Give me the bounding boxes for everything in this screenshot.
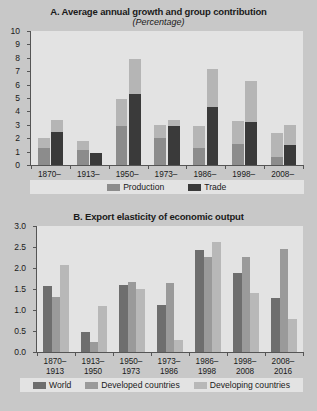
panel-a-x-label-line1: 1870– [30,170,69,180]
panel-b-x-tick [113,352,114,356]
panel-a-title: A. Average annual growth and group contr… [6,2,311,17]
panel-a-bar-segment-upper [77,141,89,150]
panel-b-bar-world [271,298,280,352]
panel-a-x-label-line1: 1950– [108,170,147,180]
panel-b-x-tick [227,352,228,356]
panel-b-y-tick-label: 1.0 [14,305,26,315]
panel-a-y-tick [27,125,31,126]
panel-a-x-tick [186,165,187,169]
panel-a-bar-segment-lower [271,157,283,165]
panel-a-bar-trade [207,69,219,165]
panel-b-bar-world [233,273,242,352]
panel-b-legend-item: Developed countries [85,380,179,390]
panel-b-y-tick-label: 0.0 [14,347,26,357]
panel-b-bar-world [81,332,90,352]
panel-b-x-label-line2: 1998 [188,367,226,377]
panel-b-bar-developing-countries [136,289,145,352]
panel-a-bar-segment-lower [90,153,102,165]
panel-b-bar-group [227,226,265,352]
panel-b-bar-developing-countries [288,319,297,352]
panel-b-bar-developed-countries [166,283,175,352]
panel-b-legend-swatch [33,382,46,389]
panel-a-y-tick [27,111,31,112]
panel-a-y-tick-label: 0 [15,160,20,170]
panel-b-bar-developed-countries [242,257,251,352]
panel-a-legend-item: Trade [188,182,226,192]
panel-a-y-tick [27,85,31,86]
panel-a-bar-production [154,125,166,165]
panel-a-bar-segment-upper [193,126,205,147]
panel-b-x-label-line2: 1973 [112,367,150,377]
panel-b-bar-world [119,285,128,352]
panel-b-bar-group [265,226,303,352]
panel-b-x-label-line1: 2008– [264,357,302,367]
panel-b-y-tick [33,331,37,332]
panel-a-legend: ProductionTrade [30,180,304,194]
panel-b-legend-swatch [194,382,207,389]
panel-a-bar-segment-upper [129,59,141,94]
panel-b-x-label-line2: 2016 [264,367,302,377]
panel-a-y-tick [27,31,31,32]
panel-b-bar-developing-countries [60,265,69,352]
panel-a-y-tick-label: 7 [15,66,20,76]
panel-a-y-tick [27,58,31,59]
panel-b-legend-item: World [33,380,71,390]
panel-a-bar-segment-upper [116,99,128,126]
panel-a-bar-segment-upper [245,81,257,123]
panel-a-bar-segment-lower [116,126,128,165]
panel-a-x-label-line1: 1998– [224,170,263,180]
figure-container: A. Average annual growth and group contr… [0,0,317,411]
panel-b-bar-developing-countries [250,293,259,352]
panel-b-x-label-line2: 1986 [150,367,188,377]
panel-b-bar-group [113,226,151,352]
chart-panel-b: B. Export elasticity of economic output … [6,206,311,409]
panel-a-x-tick [70,165,71,169]
panel-b-legend-label: World [49,380,71,390]
panel-b-x-label: 1986–1998 [188,357,226,376]
panel-b-x-label: 2008–2016 [264,357,302,376]
panel-a-y-tick-label: 2 [15,133,20,143]
panel-b-x-label-line1: 1998– [226,357,264,367]
panel-b-plot [36,226,303,353]
panel-a-bar-group [31,31,70,165]
panel-a-legend-swatch [188,184,201,191]
panel-a-bar-segment-upper [154,125,166,138]
panel-a-bar-segment-lower [51,132,63,166]
panel-b-x-tick [303,352,304,356]
panel-a-bar-segment-upper [51,120,63,131]
panel-a-bar-trade [90,153,102,165]
panel-a-bar-group [225,31,264,165]
panel-b-x-tick [265,352,266,356]
panel-b-bar-developed-countries [204,257,213,352]
panel-b-y-tick-label: 1.5 [14,284,26,294]
panel-b-bar-developed-countries [280,249,289,352]
panel-a-bar-trade [284,125,296,165]
panel-a-x-tick [264,165,265,169]
panel-a-bar-segment-lower [284,145,296,165]
panel-b-x-label-line1: 1973– [150,357,188,367]
panel-a-y-tick-label: 8 [15,53,20,63]
panel-a-x-tick [31,165,32,169]
panel-a-legend-swatch [107,184,120,191]
panel-a-legend-label: Production [123,182,164,192]
panel-b-x-label: 1950–1973 [112,357,150,376]
panel-a-subtitle: (Percentage) [6,17,311,27]
panel-a-y-tick [27,138,31,139]
panel-b-y-tick-label: 2.0 [14,263,26,273]
panel-b-x-label: 1913–1950 [74,357,112,376]
panel-a-bar-group [70,31,109,165]
panel-b-y-tick [33,247,37,248]
panel-b-bar-world [43,286,52,352]
panel-a-y-tick [27,71,31,72]
panel-b-x-label-line2: 1913 [36,367,74,377]
panel-a-bar-group [264,31,303,165]
panel-a-y-tick-label: 1 [15,147,20,157]
panel-a-x-tick [303,165,304,169]
panel-b-legend-label: Developing countries [210,380,290,390]
panel-a-bar-segment-upper [207,69,219,108]
panel-a-bar-segment-lower [168,126,180,165]
panel-b-y-tick [33,226,37,227]
panel-b-bar-developing-countries [98,306,107,352]
panel-a-bar-production [38,138,50,165]
panel-b-bar-developing-countries [174,340,183,352]
